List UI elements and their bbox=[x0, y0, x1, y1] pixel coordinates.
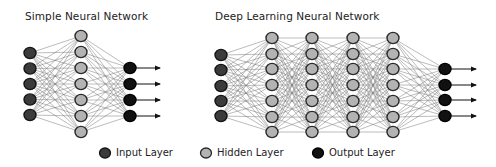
output-node bbox=[124, 78, 136, 89]
hidden-node bbox=[387, 126, 399, 137]
hidden-node bbox=[266, 63, 278, 74]
legend-hidden-swatch bbox=[201, 148, 212, 158]
input-node bbox=[24, 47, 36, 58]
legend-output-label: Output Layer bbox=[329, 147, 395, 158]
hidden-node bbox=[347, 32, 359, 43]
input-node bbox=[24, 109, 36, 120]
input-node bbox=[24, 94, 36, 105]
output-node bbox=[439, 63, 451, 74]
hidden-node bbox=[266, 111, 278, 122]
input-node bbox=[24, 63, 36, 74]
simple-network-title: Simple Neural Network bbox=[25, 10, 148, 22]
deep-network-title: Deep Learning Neural Network bbox=[215, 10, 380, 22]
hidden-node bbox=[387, 95, 399, 106]
hidden-node bbox=[387, 48, 399, 59]
output-node bbox=[124, 110, 136, 121]
hidden-node bbox=[387, 32, 399, 43]
hidden-node bbox=[387, 63, 399, 74]
hidden-node bbox=[306, 63, 318, 74]
input-node bbox=[24, 78, 36, 89]
hidden-node bbox=[75, 30, 87, 41]
hidden-node bbox=[306, 32, 318, 43]
hidden-node bbox=[347, 63, 359, 74]
hidden-node bbox=[387, 79, 399, 90]
output-node bbox=[439, 110, 451, 121]
input-node bbox=[215, 80, 227, 91]
hidden-node bbox=[75, 94, 87, 105]
input-node bbox=[215, 95, 227, 106]
hidden-node bbox=[306, 48, 318, 59]
hidden-node bbox=[347, 111, 359, 122]
hidden-node bbox=[266, 32, 278, 43]
hidden-node bbox=[347, 48, 359, 59]
input-node bbox=[215, 49, 227, 60]
hidden-node bbox=[266, 48, 278, 59]
neural-network-diagram bbox=[0, 0, 496, 167]
hidden-node bbox=[75, 126, 87, 137]
hidden-node bbox=[75, 110, 87, 121]
hidden-node bbox=[266, 126, 278, 137]
deep-network-connections bbox=[221, 38, 445, 132]
hidden-node bbox=[347, 95, 359, 106]
hidden-node bbox=[306, 95, 318, 106]
input-node bbox=[215, 64, 227, 75]
output-node bbox=[439, 79, 451, 90]
hidden-node bbox=[347, 126, 359, 137]
hidden-node bbox=[387, 111, 399, 122]
input-node bbox=[215, 110, 227, 121]
hidden-node bbox=[347, 79, 359, 90]
output-node bbox=[124, 94, 136, 105]
hidden-node bbox=[306, 79, 318, 90]
hidden-node bbox=[75, 46, 87, 57]
legend-output-swatch bbox=[313, 148, 324, 158]
legend-hidden-label: Hidden Layer bbox=[217, 147, 284, 158]
hidden-node bbox=[75, 62, 87, 73]
legend-input-swatch bbox=[100, 148, 111, 158]
hidden-node bbox=[266, 95, 278, 106]
legend-input-label: Input Layer bbox=[116, 147, 173, 158]
hidden-node bbox=[306, 111, 318, 122]
output-node bbox=[439, 94, 451, 105]
output-node bbox=[124, 62, 136, 73]
hidden-node bbox=[306, 126, 318, 137]
hidden-node bbox=[75, 78, 87, 89]
hidden-node bbox=[266, 79, 278, 90]
